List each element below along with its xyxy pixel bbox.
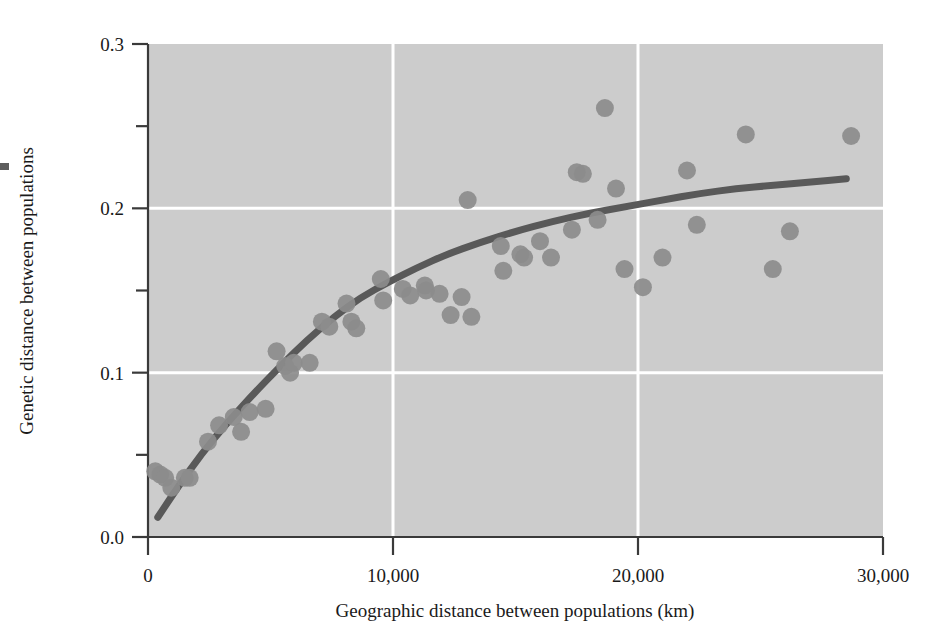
data-point — [338, 295, 356, 313]
plot-background — [148, 44, 883, 537]
data-point — [596, 99, 614, 117]
y-tick-label: 0.0 — [100, 527, 124, 548]
data-point — [634, 278, 652, 296]
data-point — [453, 288, 471, 306]
data-point — [607, 180, 625, 198]
data-point — [372, 270, 390, 288]
data-point — [285, 354, 303, 372]
y-tick-label: 0.2 — [100, 198, 124, 219]
data-point — [542, 249, 560, 267]
data-point — [842, 127, 860, 145]
data-point — [374, 291, 392, 309]
data-point — [320, 318, 338, 336]
data-point — [494, 262, 512, 280]
data-point — [688, 216, 706, 234]
data-point — [241, 403, 259, 421]
data-point — [678, 162, 696, 180]
data-point — [181, 469, 199, 487]
data-point — [654, 249, 672, 267]
x-axis-ticks: 010,00020,00030,000 — [143, 537, 909, 586]
y-tick-label: 0.1 — [100, 363, 124, 384]
data-point — [401, 286, 419, 304]
x-tick-label: 0 — [143, 565, 153, 586]
chart-canvas: 0.00.10.20.3 010,00020,00030,000 Geograp… — [0, 0, 951, 637]
data-point — [459, 191, 477, 209]
data-point — [442, 306, 460, 324]
y-tick-label: 0.3 — [100, 34, 124, 55]
scatter-chart: 0.00.10.20.3 010,00020,00030,000 Geograp… — [0, 0, 951, 637]
data-point — [764, 260, 782, 278]
data-point — [492, 237, 510, 255]
data-point — [531, 232, 549, 250]
y-axis-ticks: 0.00.10.20.3 — [100, 34, 148, 548]
data-point — [737, 125, 755, 143]
data-point — [574, 165, 592, 183]
data-point — [257, 400, 275, 418]
data-point — [616, 260, 634, 278]
data-point — [563, 221, 581, 239]
figure-root: 0.00.10.20.3 010,00020,00030,000 Geograp… — [0, 0, 951, 637]
data-point — [301, 354, 319, 372]
y-axis-label: Genetic distance between populations — [16, 147, 37, 435]
data-point — [589, 211, 607, 229]
x-tick-label: 10,000 — [367, 565, 419, 586]
data-point — [431, 285, 449, 303]
data-point — [232, 423, 250, 441]
x-axis-label: Geographic distance between populations … — [336, 600, 695, 622]
x-tick-label: 30,000 — [857, 565, 909, 586]
x-tick-label: 20,000 — [612, 565, 664, 586]
data-point — [199, 433, 217, 451]
data-point — [515, 249, 533, 267]
data-point — [462, 308, 480, 326]
data-point — [781, 222, 799, 240]
data-point — [347, 319, 365, 337]
